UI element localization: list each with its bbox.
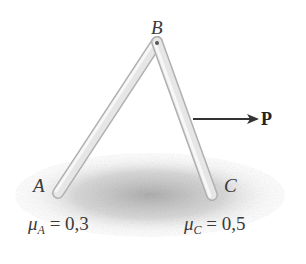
mu-subscript: C <box>194 223 202 237</box>
friction-coefficient-a: μA = 0,3 <box>28 214 89 236</box>
mu-subscript: A <box>38 223 45 237</box>
equals-sign: = <box>50 213 61 234</box>
diagram-canvas: B A C P μA = 0,3 μC = 0,5 <box>0 0 306 264</box>
mu-value: 0,3 <box>65 213 89 234</box>
point-label-b: B <box>151 18 163 37</box>
mu-symbol: μ <box>28 213 38 234</box>
pin-b-icon <box>155 41 159 45</box>
force-label-p: P <box>261 110 272 128</box>
friction-coefficient-c: μC = 0,5 <box>184 214 246 236</box>
equals-sign: = <box>206 213 217 234</box>
point-label-a: A <box>33 176 45 195</box>
mu-symbol: μ <box>184 213 194 234</box>
point-label-c: C <box>224 176 237 195</box>
mu-value: 0,5 <box>222 213 246 234</box>
